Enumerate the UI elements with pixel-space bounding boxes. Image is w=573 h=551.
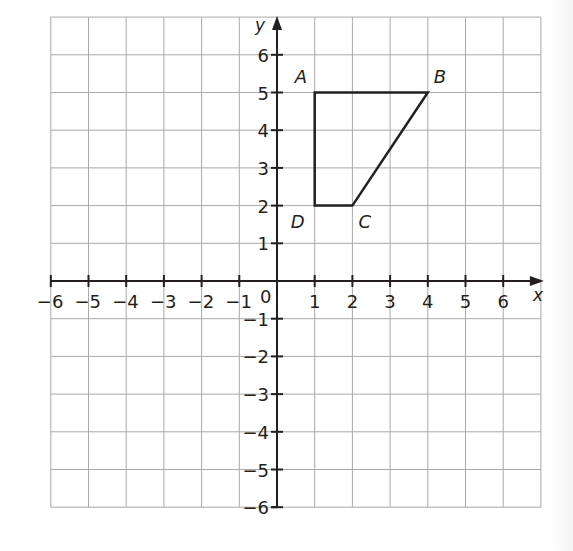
x-tick-label: −3	[150, 291, 177, 312]
x-tick-label: 3	[384, 291, 395, 312]
x-tick-label: −6	[37, 291, 64, 312]
axes: xy	[51, 15, 544, 507]
y-tick-label: −6	[242, 497, 269, 518]
page-edge-shadow	[551, 0, 573, 551]
x-tick-label: −5	[75, 291, 102, 312]
vertex-label-c: C	[358, 211, 371, 232]
x-tick-label: 1	[309, 291, 320, 312]
y-axis-arrow-icon	[272, 16, 282, 30]
x-tick-label: 4	[422, 291, 433, 312]
quadrilateral-abcd	[315, 93, 428, 206]
shape-outline	[315, 93, 428, 206]
vertex-label-d: D	[291, 211, 305, 232]
y-tick-label: −4	[242, 422, 269, 443]
coordinate-grid: xy −6−5−4−3−2−1123456−6−5−4−3−2−11234560…	[0, 0, 573, 551]
x-tick-label: 2	[347, 291, 358, 312]
y-tick-label: −3	[242, 384, 269, 405]
grid-lines	[51, 17, 541, 507]
coordinate-plane-figure: xy −6−5−4−3−2−1123456−6−5−4−3−2−11234560…	[0, 0, 573, 551]
y-axis-label: y	[254, 15, 266, 35]
x-tick-label: −4	[112, 291, 139, 312]
origin-label: 0	[260, 286, 271, 307]
y-tick-label: 2	[258, 196, 269, 217]
vertex-label-a: A	[294, 66, 307, 87]
y-tick-label: 3	[258, 158, 269, 179]
x-tick-label: 5	[460, 291, 471, 312]
y-tick-label: −2	[242, 346, 269, 367]
y-tick-label: 6	[258, 45, 269, 66]
vertex-label-b: B	[434, 66, 446, 87]
y-tick-label: 4	[258, 120, 269, 141]
y-tick-label: 5	[258, 83, 269, 104]
x-tick-label: −2	[188, 291, 215, 312]
y-tick-label: −1	[242, 309, 269, 330]
x-tick-label: 6	[497, 291, 508, 312]
x-axis-label: x	[532, 285, 544, 305]
y-tick-label: 1	[258, 233, 269, 254]
y-tick-label: −5	[242, 460, 269, 481]
